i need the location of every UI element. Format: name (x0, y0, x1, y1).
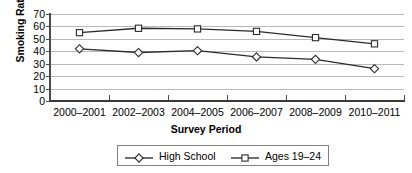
data-point-diamond (193, 47, 201, 55)
legend-label: High School (159, 150, 216, 162)
data-series-layer (0, 0, 412, 115)
data-point-square (135, 25, 141, 31)
data-point-diamond (75, 45, 83, 53)
data-point-square (76, 30, 82, 36)
series-line (80, 49, 375, 69)
legend-square-marker-icon (230, 150, 260, 162)
legend-label: Ages 19–24 (265, 150, 321, 162)
data-point-diamond (252, 53, 260, 61)
data-point-square (253, 28, 259, 34)
data-point-square (242, 154, 248, 160)
data-point-square (194, 26, 200, 32)
data-point-diamond (311, 55, 319, 63)
legend-entry[interactable]: Ages 19–24 (230, 146, 321, 165)
data-point-diamond (370, 65, 378, 73)
series-high-school (75, 45, 378, 73)
series-line (80, 28, 375, 44)
smoking-rate-line-chart: Smoking Rate 706050403020100 2000–200120… (0, 0, 412, 173)
chart-legend: High SchoolAges 19–24 (117, 145, 329, 166)
data-point-square (312, 35, 318, 41)
legend-diamond-marker-icon (124, 150, 154, 162)
series-ages-19-24 (76, 25, 377, 47)
data-point-square (371, 41, 377, 47)
data-point-diamond (134, 48, 142, 56)
x-axis-title: Survey Period (0, 123, 412, 135)
data-point-diamond (135, 153, 143, 161)
legend-entry[interactable]: High School (124, 146, 216, 165)
